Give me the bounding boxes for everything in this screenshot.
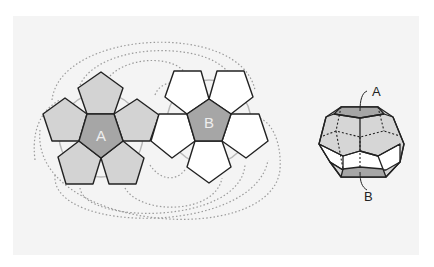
face-a-label: A [96, 127, 106, 144]
face-b-label: B [204, 114, 214, 131]
assembled-dodecahedron [319, 107, 404, 177]
petal-face [78, 72, 123, 114]
petal-face [187, 141, 231, 183]
bottom-face-b [341, 167, 386, 177]
solid-label-b: B [364, 189, 373, 204]
solid-label-a: A [372, 84, 381, 99]
dodecahedron-figure: A B A [0, 0, 434, 267]
